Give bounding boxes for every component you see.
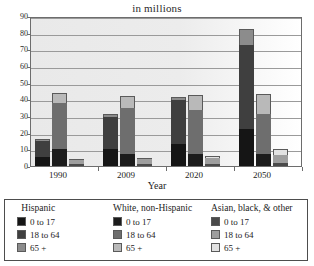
- legend-swatch-icon: [17, 230, 26, 239]
- legend-group-title: Hispanic: [17, 203, 60, 213]
- bar-segment: [171, 100, 186, 144]
- bar-segment: [52, 103, 67, 150]
- bar-segment: [205, 164, 220, 167]
- bar-2009-hispanic: [103, 114, 118, 166]
- y-tick-label: 50: [4, 80, 28, 88]
- bar-segment: [188, 154, 203, 166]
- bar-segment: [256, 154, 271, 167]
- x-tick-label: 2020: [174, 170, 214, 180]
- bar-segment: [35, 141, 50, 157]
- gridline: [31, 68, 301, 69]
- legend-item[interactable]: 0 to 17: [211, 215, 293, 228]
- x-tick-label: 1990: [38, 170, 78, 180]
- bar-2009-asianblackother: [137, 158, 152, 166]
- legend-item[interactable]: 18 to 64: [211, 228, 293, 241]
- legend-group-whitenonhispanic: White, non-Hispanic0 to 1718 to 6465 +: [113, 203, 192, 254]
- bar-2050-whitenonhispanic: [256, 94, 271, 166]
- legend-group-title: Asian, black, & other: [211, 203, 293, 213]
- bar-segment: [52, 149, 67, 166]
- bar-segment: [239, 29, 254, 45]
- legend-swatch-icon: [211, 217, 220, 226]
- y-tick-label: 60: [4, 63, 28, 71]
- x-tick-label: 2009: [106, 170, 146, 180]
- legend-item[interactable]: 65 +: [17, 241, 60, 254]
- legend-item-label: 65 +: [30, 243, 46, 253]
- plot-area: [30, 17, 302, 167]
- x-tick-mark: [98, 167, 99, 171]
- bar-segment: [69, 164, 84, 166]
- y-tick-label: 90: [4, 13, 28, 21]
- bar-segment: [239, 45, 254, 128]
- legend-item[interactable]: 18 to 64: [113, 228, 192, 241]
- bar-segment: [137, 164, 152, 167]
- bar-segment: [120, 108, 135, 154]
- bar-2020-asianblackother: [205, 156, 220, 166]
- legend-item-label: 18 to 64: [30, 230, 60, 240]
- bar-segment: [188, 95, 203, 110]
- bar-2009-whitenonhispanic: [120, 96, 135, 166]
- legend-item-label: 18 to 64: [224, 230, 254, 240]
- bar-2020-whitenonhispanic: [188, 95, 203, 166]
- gridline: [31, 51, 301, 52]
- legend-group-asianblackother: Asian, black, & other0 to 1718 to 6465 +: [211, 203, 293, 254]
- legend-swatch-icon: [211, 243, 220, 252]
- bar-2020-hispanic: [171, 97, 186, 166]
- legend-swatch-icon: [17, 217, 26, 226]
- population-bar-chart: in millions 0102030405060708090 19902009…: [0, 0, 314, 196]
- x-tick-label: 2050: [242, 170, 282, 180]
- y-tick-mark: [27, 167, 30, 168]
- bar-segment: [239, 129, 254, 167]
- y-tick-label: 80: [4, 30, 28, 38]
- bar-2050-hispanic: [239, 29, 254, 166]
- chart-title: in millions: [0, 2, 314, 14]
- legend-item[interactable]: 65 +: [211, 241, 293, 254]
- y-axis: 0102030405060708090: [0, 0, 28, 196]
- legend-item[interactable]: 0 to 17: [17, 215, 60, 228]
- legend-swatch-icon: [211, 230, 220, 239]
- bar-1990-whitenonhispanic: [52, 93, 67, 166]
- y-tick-label: 70: [4, 46, 28, 54]
- y-tick-label: 0: [4, 163, 28, 171]
- bar-segment: [103, 149, 118, 167]
- y-tick-label: 20: [4, 130, 28, 138]
- bar-segment: [256, 94, 271, 113]
- chart-legend: Hispanic0 to 1718 to 6465 +White, non-Hi…: [4, 199, 308, 261]
- y-tick-label: 10: [4, 146, 28, 154]
- legend-swatch-icon: [113, 217, 122, 226]
- legend-swatch-icon: [17, 243, 26, 252]
- bar-segment: [273, 163, 288, 166]
- x-axis-title: Year: [0, 180, 314, 191]
- gridline: [31, 85, 301, 86]
- x-tick-mark: [234, 167, 235, 171]
- legend-item-label: 0 to 17: [30, 217, 55, 227]
- legend-group-hispanic: Hispanic0 to 1718 to 6465 +: [17, 203, 60, 254]
- legend-item-label: 0 to 17: [126, 217, 151, 227]
- x-tick-mark: [302, 167, 303, 171]
- bar-segment: [273, 155, 288, 163]
- bar-1990-asianblackother: [69, 159, 84, 166]
- legend-swatch-icon: [113, 243, 122, 252]
- legend-item-label: 65 +: [126, 243, 142, 253]
- legend-item[interactable]: 18 to 64: [17, 228, 60, 241]
- legend-item-label: 65 +: [224, 243, 240, 253]
- legend-item-label: 0 to 17: [224, 217, 249, 227]
- legend-item-label: 18 to 64: [126, 230, 156, 240]
- legend-swatch-icon: [113, 230, 122, 239]
- y-tick-label: 30: [4, 113, 28, 121]
- gridline: [31, 18, 301, 19]
- bar-segment: [120, 96, 135, 108]
- legend-item[interactable]: 0 to 17: [113, 215, 192, 228]
- bar-1990-hispanic: [35, 139, 50, 166]
- x-tick-mark: [166, 167, 167, 171]
- gridline: [31, 35, 301, 36]
- y-tick-label: 40: [4, 96, 28, 104]
- bar-segment: [103, 117, 118, 149]
- bar-segment: [171, 144, 186, 166]
- bar-2050-asianblackother: [273, 149, 288, 166]
- legend-group-title: White, non-Hispanic: [113, 203, 192, 213]
- legend-item[interactable]: 65 +: [113, 241, 192, 254]
- bar-segment: [188, 110, 203, 154]
- bar-segment: [52, 93, 67, 103]
- bar-segment: [120, 154, 135, 167]
- bar-segment: [256, 114, 271, 154]
